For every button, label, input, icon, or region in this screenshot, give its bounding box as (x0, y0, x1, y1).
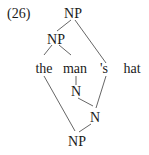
root-np-node: NP (64, 6, 82, 21)
word-possessive-s: 's (100, 61, 108, 76)
inner-np-node: NP (47, 32, 65, 47)
edge-s-n-lower (96, 76, 106, 108)
bottom-np-node: NP (68, 134, 86, 149)
edge-root-np-s (75, 20, 106, 63)
word-man: man (63, 61, 87, 76)
edge-root-np-inner-np (57, 20, 71, 31)
n-upper-node: N (71, 84, 81, 99)
word-the: the (35, 61, 52, 76)
edge-n-lower-bottom-np (79, 124, 91, 132)
edge-n-upper-n-lower (78, 98, 93, 106)
syntax-tree-diagram: (26) NP NP the man 's hat N N NP (0, 0, 149, 155)
example-number: (26) (7, 6, 31, 22)
n-lower-node: N (90, 110, 100, 125)
word-hat: hat (123, 61, 140, 76)
